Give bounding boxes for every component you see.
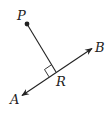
label-r: R [55,74,66,89]
label-b: B [94,40,105,55]
label-p: P [16,8,26,23]
right-angle-marker [45,65,52,77]
geometry-diagram: P R A B [0,0,108,115]
label-a: A [9,92,19,107]
